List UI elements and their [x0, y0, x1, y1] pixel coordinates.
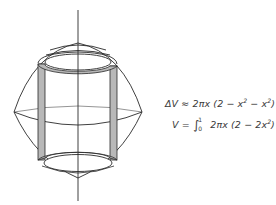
- delta-volume-equation: ΔV ≈ 2πx (2 − x2 − x2) Δ: [165, 98, 276, 109]
- delta-v-rhs-mid: − x: [247, 98, 267, 109]
- volume-rhs-prefix: 2πx (2 − 2x: [210, 119, 267, 130]
- integral-lower-limit: 0: [198, 125, 202, 132]
- volume-rhs-suffix: ) dx: [271, 119, 276, 130]
- volume-integral-equation: V = ∫10 2πx (2 − 2x2) dx: [172, 117, 276, 131]
- volume-relation: =: [182, 119, 190, 130]
- delta-v-relation: ≈: [181, 98, 189, 109]
- shell-wall-left: [38, 64, 45, 160]
- shell-wall-right: [110, 66, 117, 160]
- volume-lhs: V: [172, 119, 179, 130]
- delta-v-rhs-suffix: ) Δ: [271, 98, 276, 109]
- delta-v-lhs: ΔV: [165, 98, 178, 109]
- cylindrical-shell: [38, 52, 117, 173]
- delta-v-rhs-prefix: 2πx (2 − x: [193, 98, 244, 109]
- integral-upper-limit: 1: [198, 116, 202, 123]
- outer-profile-left-upper: [14, 43, 78, 112]
